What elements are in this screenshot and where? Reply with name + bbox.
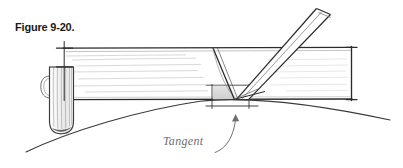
workpiece-board (63, 46, 357, 100)
round-tenon-end (41, 67, 74, 135)
tenon-back-loop (41, 76, 50, 98)
tangent-arrow (215, 114, 239, 153)
tangent-curve (26, 100, 390, 152)
tangent-label: Tangent (163, 134, 203, 148)
board-bottom-edge (63, 99, 352, 100)
figure-container: Figure 9-20. (0, 0, 403, 168)
